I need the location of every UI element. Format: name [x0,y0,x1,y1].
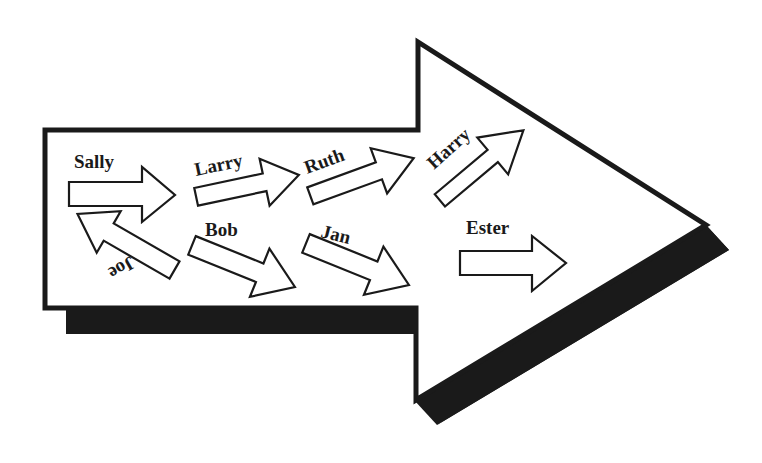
bob-label: Bob [205,219,238,240]
sally-label: Sally [74,151,115,172]
ester-label: Ester [466,217,510,238]
process-arrow-diagram: Sally Joe Larry Bob Ruth Jan [0,0,762,463]
